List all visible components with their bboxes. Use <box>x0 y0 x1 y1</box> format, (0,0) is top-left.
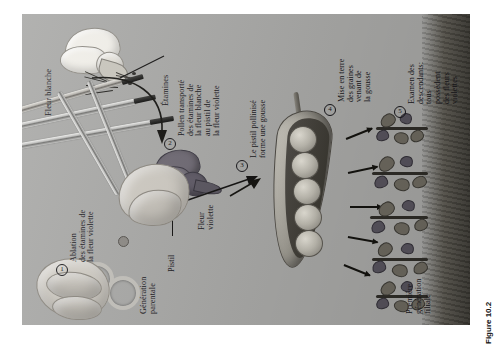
step-text-2: Pollen transporté des étamines de la fle… <box>178 80 221 136</box>
pea-seed <box>291 152 319 179</box>
label-pistil: Pistil <box>168 255 177 272</box>
figure-stage: Fleur blanche Étamines Fleur violette Pi… <box>0 0 502 347</box>
violet-plant <box>368 198 430 238</box>
stamens-leader-line <box>114 52 166 86</box>
pea-seed <box>294 204 322 231</box>
seed-arrow <box>346 128 373 140</box>
step-number-4: 4 <box>324 104 336 116</box>
pea-seed <box>293 178 321 205</box>
label-stamens: Étamines <box>162 75 171 106</box>
pea-pod-illustration <box>265 110 339 270</box>
figure-panel: Fleur blanche Étamines Fleur violette Pi… <box>22 14 470 325</box>
label-first-filial-generation: Première génération filiale <box>406 278 433 314</box>
forceps-handle-ring <box>106 276 140 310</box>
step-text-1: Ablation des étamines de la fleur violet… <box>70 210 96 262</box>
step-text-3: Le pistil pollinisé forme une gousse <box>250 100 267 158</box>
step-number-2: 2 <box>164 138 176 150</box>
label-parental-generation: Génération parentale <box>140 277 158 314</box>
step-number-5: 5 <box>394 106 406 118</box>
arrow-to-pod <box>228 176 264 200</box>
violet-plant <box>370 240 430 280</box>
figure-caption: Figure 10.2 <box>484 302 493 344</box>
step-number-3: 3 <box>236 160 248 172</box>
step-text-4: Mise en terre des graines venant de la g… <box>338 58 373 102</box>
seed-arrow <box>344 264 371 276</box>
violet-plant <box>370 154 430 194</box>
step-text-5: Examen des descendants: tous possèdent d… <box>408 62 460 104</box>
pea-seed <box>295 230 323 257</box>
label-white-flower: Fleur blanche <box>44 69 53 116</box>
pea-seed <box>289 126 317 153</box>
step-number-1: 1 <box>56 264 68 276</box>
label-violet-flower: Fleur violette <box>198 205 216 230</box>
forceps-pivot <box>118 236 129 247</box>
